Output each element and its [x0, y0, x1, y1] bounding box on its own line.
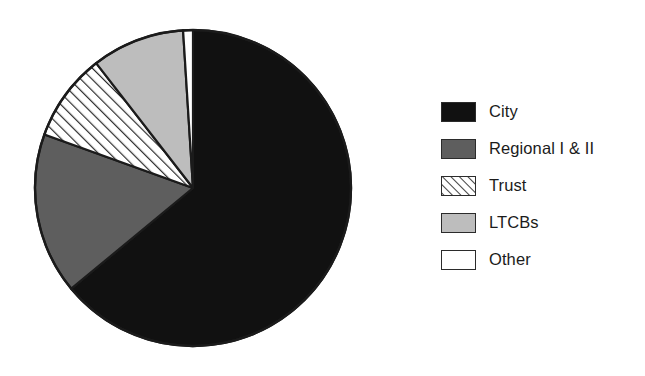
legend-label-regional: Regional I & II: [489, 140, 594, 157]
solid-white-swatch: [441, 250, 476, 270]
hatched-swatch: [441, 176, 476, 196]
legend-item-other[interactable]: Other: [441, 241, 641, 278]
solid-lightgray-swatch: [441, 213, 476, 233]
legend-label-other: Other: [489, 251, 531, 268]
solid-black-swatch: [441, 102, 476, 122]
legend-item-regional[interactable]: Regional I & II: [441, 130, 641, 167]
legend-item-trust[interactable]: Trust: [441, 167, 641, 204]
legend-item-city[interactable]: City: [441, 93, 641, 130]
hatch-pattern-icon: [442, 177, 475, 195]
legend-label-city: City: [489, 103, 518, 120]
pie-chart-svg: [30, 18, 370, 363]
legend-label-ltcbs: LTCBs: [489, 214, 539, 231]
legend-label-trust: Trust: [489, 177, 526, 194]
legend-item-ltcbs[interactable]: LTCBs: [441, 204, 641, 241]
pie-chart-figure: City Regional I & II Trust LTCBs Other: [0, 0, 645, 376]
pie-chart-plot-area: [30, 18, 370, 363]
solid-darkgray-swatch: [441, 139, 476, 159]
chart-legend: City Regional I & II Trust LTCBs Other: [441, 93, 641, 278]
